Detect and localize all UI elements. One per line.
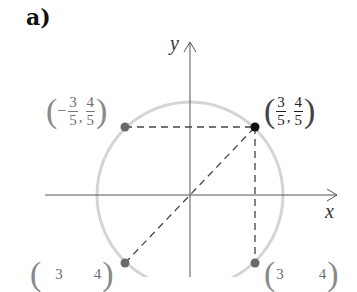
minus-sign: −	[57, 102, 66, 120]
denominator: 5	[295, 112, 303, 128]
label-point-q1: ( 3 5 , 4 5 )	[264, 94, 315, 128]
open-paren: (	[264, 94, 275, 128]
close-paren: )	[304, 94, 315, 128]
comma: ,	[79, 109, 83, 126]
numerator: 3	[55, 267, 63, 282]
numerator: 3	[276, 267, 284, 282]
comma: ,	[287, 109, 291, 126]
label-point-q4: ( 3 4 )	[264, 257, 339, 291]
y-axis-label: y	[170, 32, 179, 55]
label-point-q3: ( 3 4 )	[30, 257, 114, 291]
x-fraction: 3 5	[68, 95, 78, 128]
point-q1	[251, 123, 260, 132]
denominator: 5	[87, 112, 95, 128]
y-fraction: 4 5	[294, 95, 304, 128]
label-point-q2: ( − 3 5 , 4 5 )	[46, 94, 107, 128]
x-fraction: 3 5	[276, 95, 286, 128]
x-axis-label: x	[325, 200, 334, 223]
close-paren: )	[96, 94, 107, 128]
open-paren: (	[264, 257, 275, 291]
x-fraction: 3	[55, 267, 63, 282]
point-q3	[121, 259, 130, 268]
close-paren: )	[102, 257, 113, 291]
close-paren: )	[327, 257, 338, 291]
open-paren: (	[46, 94, 57, 128]
numerator: 4	[294, 95, 304, 112]
point-q4	[251, 259, 260, 268]
numerator: 4	[86, 95, 96, 112]
denominator: 5	[69, 112, 77, 128]
denominator: 5	[277, 112, 285, 128]
point-q2	[121, 123, 130, 132]
numerator: 4	[319, 267, 327, 282]
y-fraction: 4 5	[86, 95, 96, 128]
numerator: 3	[68, 95, 78, 112]
numerator: 3	[276, 95, 286, 112]
numerator: 4	[94, 267, 102, 282]
open-paren: (	[30, 257, 41, 291]
part-label: a)	[26, 4, 51, 30]
x-fraction: 3	[276, 267, 284, 282]
y-fraction: 4	[94, 267, 102, 282]
y-fraction: 4	[319, 267, 327, 282]
